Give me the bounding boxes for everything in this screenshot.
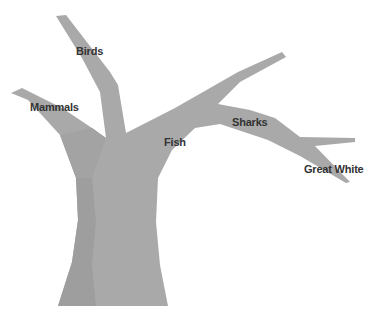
label-sharks: Sharks xyxy=(232,116,268,128)
tree-shape xyxy=(11,15,355,306)
label-mammals: Mammals xyxy=(30,101,79,113)
label-fish: Fish xyxy=(164,136,186,148)
label-great-white: Great White xyxy=(304,163,364,175)
trunk-shadow xyxy=(58,178,96,306)
tree-diagram xyxy=(0,0,380,320)
label-birds: Birds xyxy=(76,45,103,57)
